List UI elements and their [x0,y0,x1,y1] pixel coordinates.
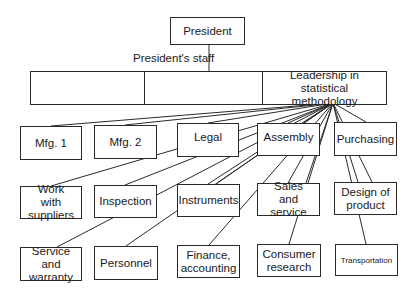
dept-label: Work with suppliers [27,183,75,222]
dept-mfg-1: Mfg. 1 [20,126,82,160]
dept-legal: Legal [177,123,239,157]
dept-instruments: Instruments [177,184,240,217]
dept-label: Personnel [100,257,152,270]
statistical-methodology-cell: Leadership in statistical methodology [262,72,386,104]
dept-purchasing: Purchasing [334,122,397,156]
dept-label: Instruments [178,194,238,207]
dept-label: Inspection [99,195,151,208]
presidents-staff-box: Leadership in statistical methodology [30,71,387,105]
dept-label: Purchasing [337,133,395,146]
dept-label: Design of product [341,186,390,212]
dept-label: Finance, accounting [181,249,237,275]
dept-transportation: Transportation [335,244,398,276]
dept-assembly: Assembly [257,123,320,156]
dept-inspection: Inspection [94,185,157,218]
dept-label: Mfg. 2 [110,136,142,149]
dept-service-and-warranty: Service and warranty [20,247,82,281]
dept-label: Sales and service [266,180,311,219]
staff-cell-1 [31,72,144,104]
dept-personnel: Personnel [94,246,158,280]
dept-label: Assembly [264,131,314,144]
president-box: President [170,17,245,45]
dept-label: Mfg. 1 [35,137,67,150]
presidents-staff-label: President's staff [133,52,214,64]
president-label: President [183,25,232,38]
dept-work-with-suppliers: Work with suppliers [20,186,82,219]
dept-design-of-product: Design of product [334,182,397,215]
dept-sales-and-service: Sales and service [257,183,320,216]
dept-label: Service and warranty [23,245,79,284]
staff-cell-2 [144,72,262,104]
dept-label: Legal [194,131,222,144]
dept-label: Consumer research [262,248,315,274]
dept-mfg-2: Mfg. 2 [94,125,157,159]
dept-consumer-research: Consumer research [257,244,321,277]
dept-finance-accounting: Finance, accounting [177,245,240,278]
dept-label: Transportation [341,254,392,267]
